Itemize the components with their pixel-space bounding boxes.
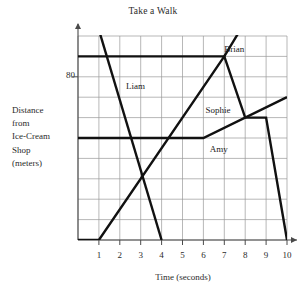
x-axis-tick-label-8: 8 <box>238 250 252 260</box>
x-axis-tick-label-10: 10 <box>280 250 294 260</box>
x-axis-tick-label-9: 9 <box>259 250 273 260</box>
x-axis-tick-label-1: 1 <box>92 250 106 260</box>
x-axis-tick-label-3: 3 <box>134 250 148 260</box>
x-axis-tick-label-6: 6 <box>196 250 210 260</box>
y-axis-arrow-icon <box>75 23 81 29</box>
series-label-sophie: Sophie <box>205 105 230 115</box>
x-axis-tick-label-5: 5 <box>176 250 190 260</box>
x-axis-tick-label-7: 7 <box>217 250 231 260</box>
series-label-brian: Brian <box>224 44 244 54</box>
series-label-amy: Amy <box>210 144 228 154</box>
series-label-liam: Liam <box>126 81 145 91</box>
x-axis-tick-label-4: 4 <box>155 250 169 260</box>
x-axis-tick-label-2: 2 <box>113 250 127 260</box>
x-axis-arrow-icon <box>291 237 297 243</box>
chart-figure: Take a Walk Distance from Ice-Cream Shop… <box>0 0 306 297</box>
series-line-liam <box>99 30 162 240</box>
